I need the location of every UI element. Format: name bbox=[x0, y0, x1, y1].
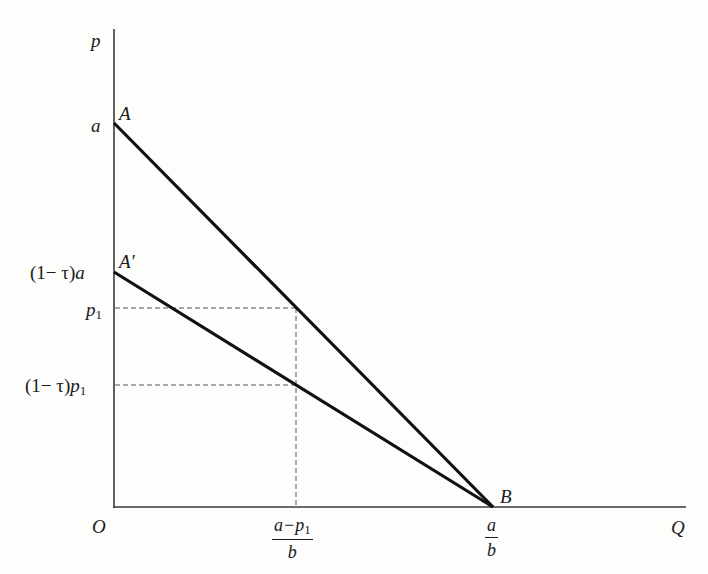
y-tick-a: a bbox=[91, 116, 101, 135]
p1-subscript: 1 bbox=[96, 307, 103, 322]
y-tick-one-minus-tau-p1: (1− τ)p1 bbox=[25, 376, 86, 397]
y-tick-one-minus-tau-a: (1− τ)a bbox=[30, 263, 85, 282]
point-B-label: B bbox=[500, 487, 512, 506]
demand-line-A-prime-B bbox=[114, 272, 493, 507]
x-tick-a-over-b-fraction: a b bbox=[485, 516, 498, 559]
fraction-denominator: b bbox=[485, 538, 498, 559]
tau-a-variable: a bbox=[75, 262, 85, 283]
tau-p1-variable: p bbox=[70, 375, 80, 396]
fraction-numerator: a−p1 bbox=[272, 516, 313, 540]
origin-label: O bbox=[92, 517, 106, 536]
point-A-label: A bbox=[119, 104, 131, 123]
tau-factor: (1− τ) bbox=[25, 375, 70, 396]
tau-p1-subscript: 1 bbox=[80, 383, 87, 398]
x-tick-q1-fraction: a−p1 b bbox=[272, 516, 313, 561]
point-A-prime-label: A′ bbox=[119, 252, 135, 271]
y-axis-label: p bbox=[91, 31, 101, 50]
fraction-denominator: b bbox=[272, 540, 313, 561]
p1-variable: p bbox=[86, 299, 96, 320]
fraction-numerator: a bbox=[485, 516, 498, 538]
x-axis-label: Q bbox=[671, 518, 685, 537]
tau-factor: (1− τ) bbox=[30, 262, 75, 283]
diagram-canvas bbox=[0, 0, 708, 574]
demand-line-AB bbox=[114, 123, 493, 507]
y-tick-p1: p1 bbox=[86, 300, 102, 321]
